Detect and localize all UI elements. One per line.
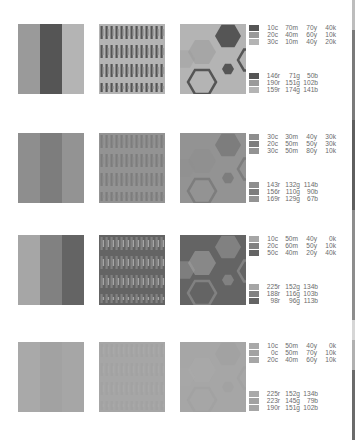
color-chip — [249, 25, 259, 31]
magenta-value: 60m — [280, 242, 298, 249]
color-chip — [249, 73, 259, 79]
magenta-value: 40m — [280, 249, 298, 256]
red-value: 143r — [262, 181, 280, 188]
black-value: 40k — [319, 24, 336, 31]
color-chip — [249, 32, 259, 38]
color-chip — [249, 196, 259, 202]
cmyk-entry: 50c40m20y40k — [249, 249, 349, 256]
cmyk-entry: 20c40m60y10k — [249, 31, 349, 38]
black-value: 0k — [319, 342, 336, 349]
rgb-legend: 225r152g134b 223r145g79b 190r151g102b — [249, 390, 349, 412]
color-chip — [249, 350, 259, 356]
color-chip — [249, 291, 259, 297]
red-value: 98r — [262, 297, 280, 304]
rgb-entry: 225r152g134b — [249, 390, 349, 397]
green-value: 174g — [282, 86, 300, 93]
rgb-entry: 156r110g90b — [249, 188, 349, 195]
hexagon-pattern-swatch — [180, 24, 246, 94]
magenta-value: 40m — [280, 356, 298, 363]
color-chip — [249, 357, 259, 363]
color-chip — [249, 189, 259, 195]
cyan-value: 30c — [262, 147, 278, 154]
color-chip — [249, 134, 259, 140]
magenta-value: 50m — [280, 349, 298, 356]
palette-row-3: 10c50m40y0k 20c60m50y10k 50c40m20y40k 22… — [0, 235, 345, 307]
cyan-value: 30c — [262, 133, 278, 140]
rgb-legend: 146r71g50b 190r151g102b 159r174g141b — [249, 72, 349, 94]
blue-value: 134b — [301, 390, 318, 397]
black-value: 10k — [319, 242, 336, 249]
cyan-value: 0c — [262, 349, 278, 356]
bar-pattern-swatch — [99, 133, 165, 203]
green-value: 132g — [282, 181, 300, 188]
palette-row-1: 10c70m70y40k 20c40m60y10k 30c10m40y20k 1… — [0, 24, 345, 96]
green-value: 129g — [282, 195, 300, 202]
color-chip — [249, 236, 259, 242]
green-value: 151g — [282, 404, 300, 411]
cmyk-legend: 30c30m40y30k 20c50m50y30k 30c50m80y10k — [249, 133, 349, 155]
blue-value: 114b — [301, 181, 318, 188]
green-value: 152g — [282, 390, 300, 397]
rgb-entry: 190r151g102b — [249, 404, 349, 411]
magenta-value: 30m — [280, 133, 298, 140]
cyan-value: 10c — [262, 342, 278, 349]
black-value: 40k — [319, 249, 336, 256]
hexagon-pattern-swatch — [180, 342, 246, 412]
cmyk-entry: 10c50m40y0k — [249, 342, 349, 349]
red-value: 223r — [262, 397, 280, 404]
cyan-value: 20c — [262, 31, 278, 38]
cmyk-entry: 30c10m40y20k — [249, 38, 349, 45]
blue-value: 102b — [301, 404, 318, 411]
hexagon-pattern-swatch — [180, 235, 246, 305]
cmyk-entry: 20c60m50y10k — [249, 242, 349, 249]
stripe-swatch — [18, 24, 84, 94]
black-value: 10k — [319, 349, 336, 356]
cmyk-entry: 30c50m80y10k — [249, 147, 349, 154]
rgb-entry: 190r151g102b — [249, 79, 349, 86]
magenta-value: 70m — [280, 24, 298, 31]
stripe-swatch — [18, 133, 84, 203]
stripe-swatch — [18, 235, 84, 305]
cyan-value: 30c — [262, 38, 278, 45]
yellow-value: 40y — [301, 38, 317, 45]
blue-value: 50b — [301, 72, 318, 79]
cyan-value: 20c — [262, 140, 278, 147]
bar-pattern-swatch — [99, 235, 165, 305]
blue-value: 113b — [301, 297, 318, 304]
cmyk-entry: 0c50m70y10k — [249, 349, 349, 356]
color-chip — [249, 398, 259, 404]
color-chip — [249, 405, 259, 411]
red-value: 159r — [262, 86, 280, 93]
magenta-value: 50m — [280, 235, 298, 242]
magenta-value: 10m — [280, 38, 298, 45]
yellow-value: 40y — [301, 235, 317, 242]
cmyk-entry: 30c30m40y30k — [249, 133, 349, 140]
cyan-value: 20c — [262, 356, 278, 363]
magenta-value: 50m — [280, 140, 298, 147]
red-value: 225r — [262, 390, 280, 397]
color-chip — [249, 243, 259, 249]
blue-value: 90b — [301, 188, 318, 195]
blue-value: 134b — [301, 283, 318, 290]
magenta-value: 50m — [280, 342, 298, 349]
color-chip — [249, 141, 259, 147]
yellow-value: 80y — [301, 147, 317, 154]
color-chip — [249, 250, 259, 256]
rgb-legend: 225r152g134b 188r116g103b 98r96g113b — [249, 283, 349, 305]
green-value: 151g — [282, 79, 300, 86]
color-chip — [249, 148, 259, 154]
black-value: 10k — [319, 356, 336, 363]
rgb-entry: 159r174g141b — [249, 86, 349, 93]
stripe-swatch — [18, 342, 84, 412]
red-value: 146r — [262, 72, 280, 79]
rgb-entry: 225r152g134b — [249, 283, 349, 290]
color-chip — [249, 80, 259, 86]
magenta-value: 50m — [280, 147, 298, 154]
cyan-value: 10c — [262, 24, 278, 31]
green-value: 96g — [282, 297, 300, 304]
palette-row-2: 30c30m40y30k 20c50m50y30k 30c50m80y10k 1… — [0, 133, 345, 205]
rgb-entry: 98r96g113b — [249, 297, 349, 304]
color-chip — [249, 39, 259, 45]
bar-pattern-swatch — [99, 24, 165, 94]
yellow-value: 20y — [301, 249, 317, 256]
